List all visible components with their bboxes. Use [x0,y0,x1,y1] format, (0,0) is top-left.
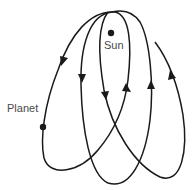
arrow-up-icon [147,80,155,89]
orbit-diagram: Sun Planet [0,0,195,190]
sun-icon [108,30,114,36]
orbit-loop-outer [43,12,130,170]
orbit-paths [0,0,195,190]
planet-icon [40,124,46,130]
orbit-loop-middle [81,11,152,184]
sun-label: Sun [104,39,124,51]
arrow-up-icon [122,83,131,92]
arrow-down-icon [101,91,109,100]
planet-label: Planet [7,102,38,114]
arrow-down-icon [60,56,68,66]
arrow-down-icon [78,74,86,83]
